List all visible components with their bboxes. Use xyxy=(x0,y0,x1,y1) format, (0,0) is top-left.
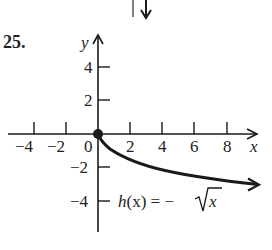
fn-radicand: x xyxy=(208,192,217,211)
x-tick-4: 4 xyxy=(158,137,167,156)
x-tick-8: 8 xyxy=(223,137,232,156)
x-axis-label: x xyxy=(249,137,258,156)
y-axis: y 4 2 −2 −4 xyxy=(70,33,110,232)
x-tick-6: 6 xyxy=(190,137,199,156)
y-tick-4: 4 xyxy=(84,58,93,77)
fn-name: h xyxy=(118,192,127,211)
fn-paren: (x) = − xyxy=(127,192,175,211)
x-tick-2: 2 xyxy=(126,137,135,156)
x-tick-neg4: −4 xyxy=(15,137,34,156)
top-arrow-fragment xyxy=(133,0,151,18)
y-tick-neg4: −4 xyxy=(70,192,89,211)
start-point xyxy=(93,129,103,139)
y-axis-label: y xyxy=(79,33,89,52)
x-axis: −4 −2 0 2 4 6 8 x xyxy=(8,122,258,156)
y-tick-neg2: −2 xyxy=(70,158,88,177)
svg-text:h(x) = −: h(x) = − xyxy=(118,192,174,211)
x-tick-neg2: −2 xyxy=(47,137,65,156)
function-curve xyxy=(93,129,259,191)
x-tick-0: 0 xyxy=(84,137,93,156)
graph: 25. y 4 2 −2 −4 −4 −2 0 2 4 6 8 x xyxy=(0,0,272,250)
problem-number: 25. xyxy=(3,32,26,52)
y-tick-2: 2 xyxy=(84,91,93,110)
function-label: h(x) = − x xyxy=(118,188,222,211)
